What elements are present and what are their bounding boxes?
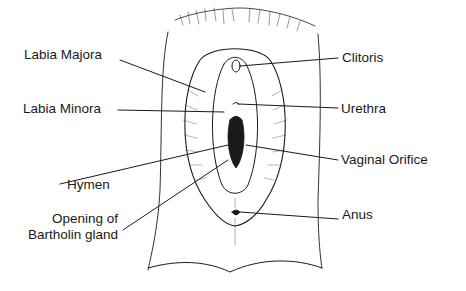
label-bartholin-gland-opening: Opening of Bartholin gland — [11, 211, 118, 243]
label-clitoris: Clitoris — [342, 50, 383, 66]
label-bartholin-line-1: Opening of — [11, 211, 118, 227]
label-labia-minora: Labia Minora — [23, 101, 101, 117]
label-urethra: Urethra — [341, 101, 386, 117]
diagram-canvas: Labia Majora Labia Minora Hymen Opening … — [0, 0, 466, 291]
label-bartholin-line-2: Bartholin gland — [11, 227, 118, 243]
label-vaginal-orifice: Vaginal Orifice — [341, 152, 428, 168]
anatomical-drawing — [0, 0, 466, 291]
label-hymen: Hymen — [67, 177, 110, 193]
label-anus: Anus — [342, 207, 373, 223]
label-labia-majora: Labia Majora — [24, 47, 102, 63]
